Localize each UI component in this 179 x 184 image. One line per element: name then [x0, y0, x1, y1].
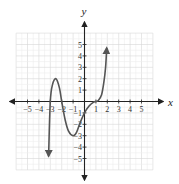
x-tick-label: 2 — [105, 105, 109, 114]
y-tick-label: 2 — [78, 75, 82, 84]
x-tick-label: −4 — [35, 105, 44, 114]
y-tick-label: 4 — [78, 52, 82, 61]
x-tick-label: 5 — [140, 105, 144, 114]
y-axis-label: y — [81, 5, 87, 17]
function-graph: −5−4−3−2−112345−5−4−3−2−112345 x y — [0, 0, 179, 184]
x-tick-label: 4 — [128, 105, 132, 114]
y-tick-label: −4 — [73, 143, 82, 152]
x-tick-label: 3 — [117, 105, 121, 114]
y-tick-label: −5 — [73, 155, 82, 164]
x-tick-label: 1 — [94, 105, 98, 114]
y-tick-label: 5 — [78, 41, 82, 50]
y-tick-label: −3 — [73, 132, 82, 141]
y-tick-label: 1 — [78, 86, 82, 95]
x-tick-label: −5 — [23, 105, 32, 114]
y-tick-label: 3 — [78, 63, 82, 72]
x-axis-label: x — [167, 96, 173, 108]
y-tick-label: −1 — [73, 109, 82, 118]
